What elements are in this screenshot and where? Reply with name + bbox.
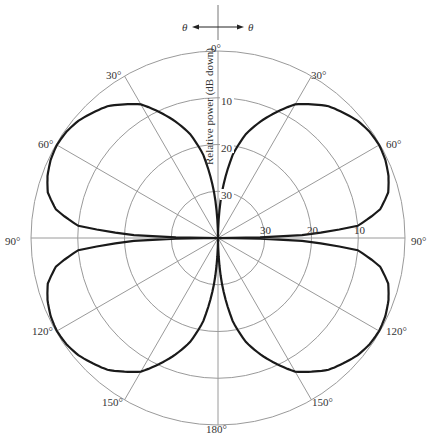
angle-label-120-left: 120° [32, 325, 53, 337]
theta-right-label: θ [248, 21, 254, 33]
angle-label-60-right: 60° [386, 138, 401, 150]
ring-label-20-horizontal: 20 [307, 224, 319, 236]
angle-label-90-right: 90° [411, 235, 426, 247]
angle-label-30-left: 30° [106, 69, 121, 81]
angle-label-150-left: 150° [102, 396, 123, 408]
ring-label-30-horizontal: 30 [260, 224, 272, 236]
theta-direction-indicator: θ θ [182, 5, 254, 40]
polar-radiation-chart: θ θ 0° 30° 60° 90° 120° 150° 180° 150° 1… [0, 0, 436, 441]
ring-label-20-vertical: 20 [221, 142, 233, 154]
arrow-right-icon [237, 25, 244, 30]
angle-label-120-right: 120° [386, 325, 407, 337]
ring-label-10-horizontal: 10 [354, 224, 366, 236]
theta-left-label: θ [182, 21, 188, 33]
radial-axis-label: Relative power (dB down) [203, 48, 216, 165]
angle-label-30-right: 30° [311, 69, 326, 81]
angle-label-90-left: 90° [5, 235, 20, 247]
angle-label-60-left: 60° [38, 138, 53, 150]
angle-label-150-right: 150° [312, 396, 333, 408]
arrow-left-icon [192, 25, 199, 30]
ring-label-10-vertical: 10 [221, 95, 233, 107]
ring-label-30-vertical: 30 [221, 189, 233, 201]
angle-label-180: 180° [206, 423, 227, 435]
